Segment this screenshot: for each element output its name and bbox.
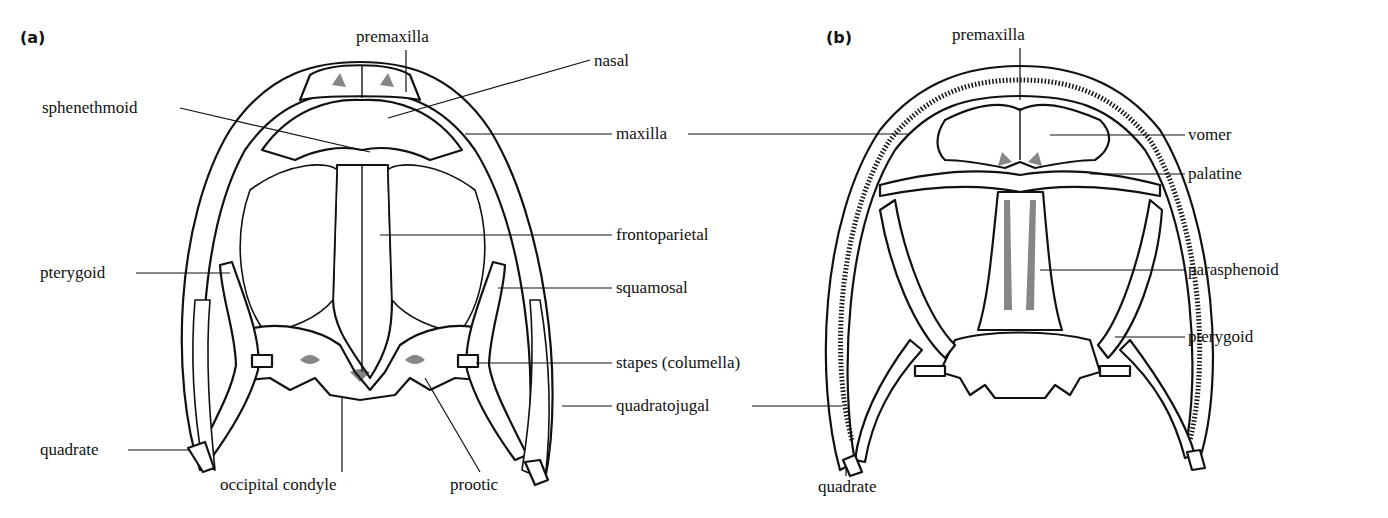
label-quadrate-b: quadrate	[818, 478, 877, 495]
label-parasphenoid: parasphenoid	[1188, 261, 1279, 278]
label-squamosal: squamosal	[616, 279, 688, 296]
label-stapes: stapes (columella)	[616, 354, 740, 371]
frog-skull-figure: (a) premaxilla nasal sphenethmoid maxill…	[0, 0, 1388, 518]
skull-drawings	[0, 0, 1388, 518]
label-prootic: prootic	[450, 476, 498, 493]
label-nasal: nasal	[594, 52, 629, 69]
label-premaxilla-a: premaxilla	[356, 28, 429, 45]
panel-b-tag: (b)	[826, 28, 852, 47]
label-pterygoid-b: pterygoid	[1188, 328, 1253, 345]
skull-dorsal-view	[182, 62, 553, 485]
label-frontoparietal: frontoparietal	[616, 226, 709, 243]
label-vomer: vomer	[1188, 126, 1231, 143]
label-palatine: palatine	[1188, 165, 1242, 182]
label-quadrate-a: quadrate	[40, 441, 99, 458]
label-quadratojugal: quadratojugal	[616, 397, 709, 414]
label-sphenethmoid: sphenethmoid	[42, 99, 137, 116]
label-premaxilla-b: premaxilla	[952, 26, 1025, 43]
panel-a-tag: (a)	[20, 28, 45, 47]
label-pterygoid-a: pterygoid	[40, 264, 105, 281]
label-occipital-condyle: occipital condyle	[220, 476, 337, 493]
label-maxilla: maxilla	[616, 125, 667, 142]
skull-ventral-view	[826, 66, 1213, 476]
